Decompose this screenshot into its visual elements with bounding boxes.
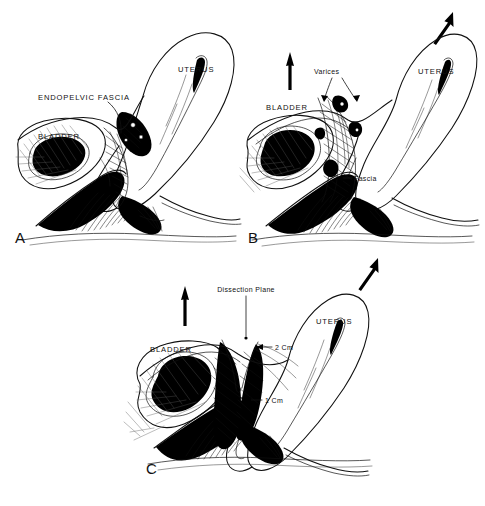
label-bladder-c: BLADDER bbox=[150, 345, 192, 354]
dissection-plane-point-c bbox=[244, 336, 247, 339]
varix-lumen-b1 bbox=[340, 102, 343, 105]
vessel-lumen-a3 bbox=[124, 138, 127, 141]
label-2cm: 2 Cm bbox=[275, 344, 293, 351]
panel-letter-b: B bbox=[248, 229, 259, 246]
figure-container: ENDOPELVIC FASCIA BLADDER UTERUS A bbox=[0, 0, 485, 506]
label-uterus-c: UTERUS bbox=[316, 317, 352, 326]
panel-letter-c: C bbox=[146, 460, 157, 477]
vessel-lumen-a2 bbox=[139, 135, 143, 139]
label-fascia: Fascia bbox=[354, 175, 377, 182]
label-bladder-b: BLADDER bbox=[266, 103, 308, 112]
label-varices: Varices bbox=[314, 68, 339, 75]
label-uterus-a: UTERUS bbox=[178, 65, 214, 74]
label-dissection-plane: Dissection Plane bbox=[217, 286, 275, 293]
varix-lumen-b2 bbox=[356, 129, 359, 132]
panel-letter-a: A bbox=[15, 229, 26, 246]
label-endopelvic-fascia: ENDOPELVIC FASCIA bbox=[38, 93, 130, 102]
label-uterus-b: UTERUS bbox=[418, 67, 454, 76]
label-1cm: 1 Cm bbox=[265, 397, 283, 404]
label-bladder-a: BLADDER bbox=[38, 132, 80, 141]
vessel-lumen-a1 bbox=[131, 123, 136, 128]
anatomy-figure: ENDOPELVIC FASCIA BLADDER UTERUS A bbox=[0, 0, 485, 506]
